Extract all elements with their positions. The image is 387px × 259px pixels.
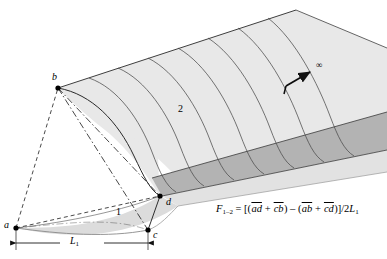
formula-minus: –	[290, 203, 295, 214]
vertex-d-dot	[157, 193, 162, 198]
dimension-label-subscript: 1	[76, 240, 80, 248]
vertex-c-dot	[145, 227, 150, 232]
string-ab	[16, 88, 58, 228]
vertex-label-b: b	[52, 72, 57, 82]
formula-lhs-subscript: 1–2	[222, 208, 233, 216]
formula-equals: =	[236, 203, 242, 214]
diagram-canvas	[0, 0, 387, 259]
formula-denominator-subscript: 1	[355, 208, 359, 216]
formula-plus-2: +	[315, 203, 321, 214]
view-factor-formula: F1–2 = [(ad + cb) – (ab + cd)]/2L1	[216, 203, 359, 217]
formula-term-ab: ab	[301, 203, 312, 214]
vertex-a-dot	[13, 225, 18, 230]
formula-close-paren-1: )	[284, 203, 288, 214]
formula-plus-1: +	[265, 203, 271, 214]
formula-term-cd: cd	[324, 203, 335, 214]
vertex-b-dot	[55, 85, 60, 90]
vertex-label-d: d	[166, 197, 171, 207]
infinity-symbol: ∞	[316, 61, 322, 70]
dimension-label-L1: L1	[70, 236, 79, 248]
formula-term-cb: cb	[273, 203, 284, 214]
vertex-label-a: a	[4, 220, 9, 230]
view-factor-diagram: a b c d 1 2 ∞ L1 F1–2 = [(ad + cb) – (ab…	[0, 0, 387, 259]
formula-term-ad: ad	[251, 203, 262, 214]
region-label-1: 1	[116, 207, 121, 217]
vertex-label-c: c	[153, 230, 157, 240]
region-label-2: 2	[178, 104, 183, 114]
